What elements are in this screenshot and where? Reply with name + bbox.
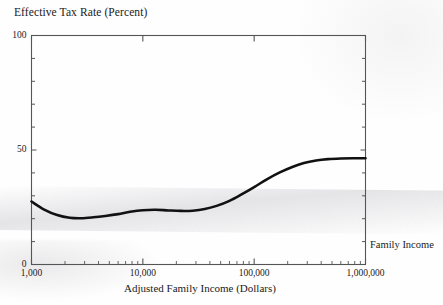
x-tick-label: 100,000: [194, 268, 314, 278]
data-series-line: [32, 158, 366, 218]
x-axis-title: Adjusted Family Income (Dollars): [0, 282, 400, 294]
right-axis-label: Family Income: [370, 239, 434, 250]
axis-frame: [32, 36, 366, 265]
plot-frame: [32, 36, 366, 265]
x-tick-label: 10,000: [83, 268, 203, 278]
y-tick-label: 50: [1, 144, 27, 154]
chart-figure: Effective Tax Rate (Percent) 1005001,000…: [0, 0, 443, 305]
x-tick-label: 1,000,000: [306, 268, 426, 278]
plot-area: [0, 0, 443, 305]
axis-ticks: [32, 36, 366, 265]
x-tick-label: 1,000: [0, 268, 92, 278]
y-tick-label: 100: [1, 30, 27, 40]
